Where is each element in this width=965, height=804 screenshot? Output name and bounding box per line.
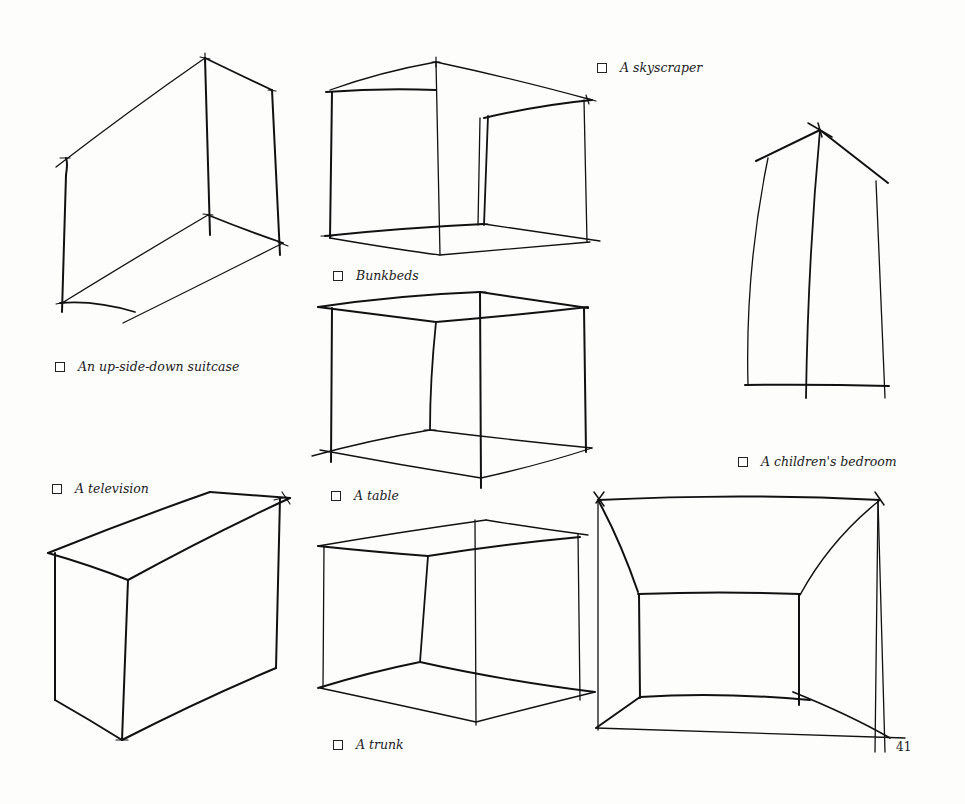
option-label: A trunk [356, 737, 404, 752]
checkbox[interactable] [597, 63, 607, 73]
checkbox[interactable] [738, 457, 748, 467]
drawing-box-top-left [56, 53, 288, 323]
option-label: A children's bedroom [761, 454, 897, 469]
checkbox[interactable] [331, 491, 341, 501]
option-childrens-bedroom[interactable]: A children's bedroom [738, 454, 897, 469]
page-number: 41 [896, 740, 911, 754]
checkbox[interactable] [333, 271, 343, 281]
sketch-canvas [0, 0, 965, 804]
option-skyscraper[interactable]: A skyscraper [597, 60, 702, 75]
option-table[interactable]: A table [331, 488, 399, 503]
drawing-box-top-center [321, 57, 600, 255]
option-label: A table [354, 488, 399, 503]
option-label: An up-side-down suitcase [78, 359, 239, 374]
checkbox[interactable] [333, 740, 343, 750]
option-television[interactable]: A television [52, 481, 149, 496]
option-bunkbeds[interactable]: Bunkbeds [333, 268, 419, 283]
drawing-cube-bottom-center [318, 520, 595, 725]
drawing-cube-center [312, 292, 592, 488]
drawing-box-bottom-left [48, 492, 290, 740]
drawing-room-interior [594, 492, 905, 752]
option-label: Bunkbeds [356, 268, 419, 283]
option-trunk[interactable]: A trunk [333, 737, 404, 752]
checkbox[interactable] [55, 362, 65, 372]
drawing-tapered-tower [745, 123, 889, 398]
workbook-page: A skyscraper Bunkbeds An up-side-down su… [0, 0, 965, 804]
checkbox[interactable] [52, 484, 62, 494]
option-label: A skyscraper [620, 60, 702, 75]
option-suitcase[interactable]: An up-side-down suitcase [55, 359, 239, 374]
option-label: A television [75, 481, 149, 496]
